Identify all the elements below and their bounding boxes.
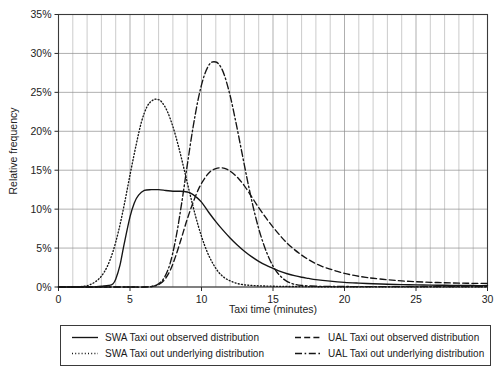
legend-label: SWA Taxi out observed distribution <box>105 332 259 343</box>
legend-label: UAL Taxi out underlying distribution <box>328 348 484 359</box>
y-tick-label: 0% <box>36 281 51 293</box>
x-axis-title: Taxi time (minutes) <box>229 303 317 315</box>
x-tick-label: 20 <box>339 293 351 305</box>
chart-legend: SWA Taxi out observed distributionUAL Ta… <box>61 326 491 366</box>
taxi-time-distribution-chart: 0%5%10%15%20%25%30%35% 051015202530 Taxi… <box>0 0 498 380</box>
y-tick-label: 10% <box>30 203 51 215</box>
x-tick-label: 0 <box>56 293 62 305</box>
y-tick-label: 30% <box>30 47 51 59</box>
x-tick-label: 25 <box>410 293 422 305</box>
x-tick-label: 5 <box>127 293 133 305</box>
legend-label: SWA Taxi out underlying distribution <box>105 348 264 359</box>
y-tick-label: 5% <box>36 242 51 254</box>
y-tick-label: 25% <box>30 86 51 98</box>
chart-figure: 0%5%10%15%20%25%30%35% 051015202530 Taxi… <box>0 0 498 380</box>
y-axis-title: Relative frequency <box>7 107 19 195</box>
y-tick-label: 20% <box>30 125 51 137</box>
x-tick-label: 10 <box>196 293 208 305</box>
y-tick-label: 15% <box>30 164 51 176</box>
x-tick-label: 30 <box>482 293 494 305</box>
legend-label: UAL Taxi out observed distribution <box>328 332 479 343</box>
y-tick-label: 35% <box>30 8 51 20</box>
